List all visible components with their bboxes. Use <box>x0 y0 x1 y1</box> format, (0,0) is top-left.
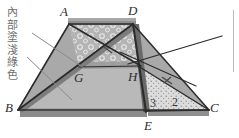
point-label-a: A <box>60 4 68 20</box>
point-label-h: H <box>128 69 137 85</box>
point-label-b: B <box>5 100 13 116</box>
note-char-3: 塗 <box>5 31 19 44</box>
note-char-5: 綠 <box>5 56 19 69</box>
interior-fill-note: 內 部 塗 淺 綠 色 <box>5 6 19 81</box>
point-label-d: D <box>128 3 137 19</box>
segment-ratio-3: 3 <box>150 96 156 111</box>
right-margin-rule <box>233 10 234 72</box>
top-edge-slab-highlight <box>68 18 136 21</box>
segment-ratio-2: 2 <box>172 95 178 110</box>
note-char-6: 色 <box>5 69 19 82</box>
geometry-figure: 內 部 塗 淺 綠 色 A D G H B E C 3 2 <box>0 0 239 138</box>
point-label-e: E <box>144 118 152 134</box>
point-label-g: G <box>74 70 83 86</box>
note-char-2: 部 <box>5 19 19 32</box>
point-label-c: C <box>210 100 219 116</box>
figure-canvas <box>0 0 239 138</box>
note-char-1: 內 <box>5 6 19 19</box>
note-char-4: 淺 <box>5 44 19 57</box>
